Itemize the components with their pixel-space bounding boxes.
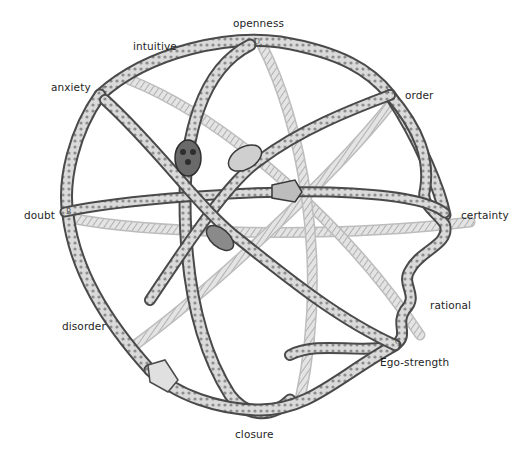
marker-a-right: A	[384, 86, 390, 95]
marker-c-lower: C	[395, 337, 400, 346]
serpent-head-equator	[272, 180, 302, 202]
label-disorder: disorder	[62, 320, 106, 332]
label-openness: openness	[233, 17, 284, 29]
marker-c-left: C	[102, 85, 107, 94]
label-doubt: doubt	[24, 209, 55, 221]
label-order: order	[405, 89, 434, 101]
serpent-rings-illustration: D C A B C	[0, 0, 521, 455]
label-anxiety: anxiety	[51, 81, 91, 93]
label-ego-strength: Ego-strength	[380, 356, 449, 368]
label-rational: rational	[430, 299, 471, 311]
serpent-sphere-figure: D C A B C openness intuitive anxiety ord…	[0, 0, 521, 455]
label-certainty: certainty	[461, 209, 509, 221]
serpent-head-center	[175, 140, 201, 176]
label-intuitive: intuitive	[133, 40, 177, 52]
marker-d-top: D	[254, 37, 260, 46]
label-closure: closure	[235, 428, 274, 440]
marker-b-left: B	[66, 207, 71, 216]
